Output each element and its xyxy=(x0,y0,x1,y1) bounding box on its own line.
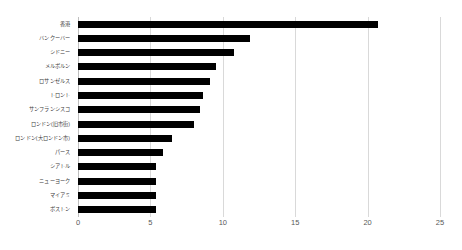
y-axis-tick: 香港 xyxy=(0,17,74,31)
y-axis-tick-label: パース xyxy=(55,150,70,155)
bar xyxy=(78,135,172,142)
y-axis-tick: パース xyxy=(0,146,74,160)
y-axis-tick: メルボルン xyxy=(0,60,74,74)
bar xyxy=(78,63,216,70)
bar-row xyxy=(78,174,440,188)
y-axis-tick: ロンドン(大ロンドン市) xyxy=(0,131,74,145)
y-axis-tick-label: ニューヨーク xyxy=(39,179,70,184)
y-axis-tick-label: マイアミ xyxy=(50,193,70,198)
y-axis-tick: ボストン xyxy=(0,203,74,217)
bar xyxy=(78,163,156,170)
y-axis-tick-label: シドニー xyxy=(50,50,70,55)
y-axis-tick-label: 香港 xyxy=(60,22,70,27)
y-axis-tick-label: メルボルン xyxy=(45,64,71,69)
bar-row xyxy=(78,103,440,117)
bar-row xyxy=(78,203,440,217)
y-axis-tick-label: トロント xyxy=(50,93,70,98)
gridline xyxy=(440,17,441,217)
bar xyxy=(78,78,210,85)
y-axis-tick: シドニー xyxy=(0,46,74,60)
bar xyxy=(78,121,194,128)
x-axis-tick-label: 25 xyxy=(436,219,444,227)
y-axis-tick: ロンドン(旧市街) xyxy=(0,117,74,131)
y-axis-tick-label: バンクーバー xyxy=(39,36,70,41)
bar-series xyxy=(78,17,440,217)
bar-row xyxy=(78,46,440,60)
y-axis-tick-label: シアトル xyxy=(50,164,70,169)
y-axis-tick: マイアミ xyxy=(0,188,74,202)
bar xyxy=(78,49,234,56)
x-axis-tick-label: 10 xyxy=(219,219,227,227)
y-axis-tick-label: ロサンゼルス xyxy=(39,79,70,84)
x-axis-tick-label: 15 xyxy=(291,219,299,227)
x-axis-tick-label: 0 xyxy=(76,219,80,227)
bar xyxy=(78,92,203,99)
x-axis-tick-label: 20 xyxy=(363,219,371,227)
plot-area xyxy=(78,17,440,217)
y-axis-tick: トロント xyxy=(0,88,74,102)
bar-row xyxy=(78,31,440,45)
bar xyxy=(78,192,156,199)
y-axis-tick: サンフランシスコ xyxy=(0,103,74,117)
y-axis-tick-label: サンフランシスコ xyxy=(29,107,70,112)
bar xyxy=(78,178,156,185)
y-axis-tick-label: ロンドン(旧市街) xyxy=(31,122,70,127)
bar-row xyxy=(78,188,440,202)
y-axis-category-labels: 香港 バンクーバー シドニー メルボルン ロサンゼルス トロント サンフランシス… xyxy=(0,17,74,217)
y-axis-tick-label: ロンドン(大ロンドン市) xyxy=(15,136,70,141)
bar-row xyxy=(78,117,440,131)
bar-row xyxy=(78,131,440,145)
bar xyxy=(78,35,250,42)
bar xyxy=(78,106,200,113)
bar xyxy=(78,149,163,156)
bar xyxy=(78,206,156,213)
y-axis-tick-label: ボストン xyxy=(50,207,70,212)
bar-row xyxy=(78,146,440,160)
y-axis-tick: シアトル xyxy=(0,160,74,174)
bar-row xyxy=(78,160,440,174)
x-axis-tick-label: 5 xyxy=(148,219,152,227)
y-axis-tick: バンクーバー xyxy=(0,31,74,45)
bar-row xyxy=(78,74,440,88)
bar-row xyxy=(78,88,440,102)
y-axis-tick: ロサンゼルス xyxy=(0,74,74,88)
y-axis-tick: ニューヨーク xyxy=(0,174,74,188)
bar-row xyxy=(78,17,440,31)
bar-chart: 香港 バンクーバー シドニー メルボルン ロサンゼルス トロント サンフランシス… xyxy=(0,0,462,250)
bar xyxy=(78,21,378,28)
x-axis-tick-labels: 0510152025 xyxy=(78,219,440,235)
bar-row xyxy=(78,60,440,74)
